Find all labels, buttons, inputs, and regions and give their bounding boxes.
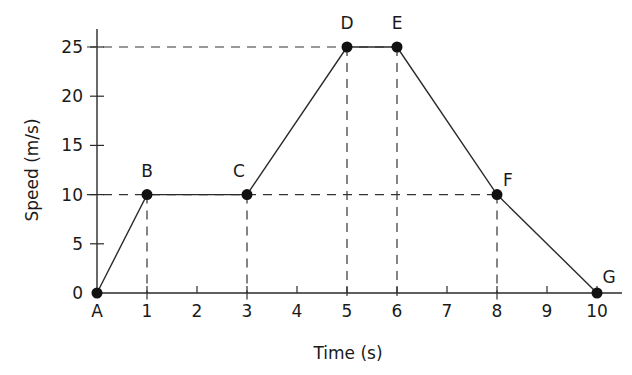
point-labels: BCDEFG xyxy=(141,13,615,287)
data-point-G xyxy=(592,288,603,299)
y-tick-label: 10 xyxy=(61,185,83,205)
speed-time-chart: A123456789100510152025 BCDEFG Time (s) S… xyxy=(0,0,632,375)
point-label-C: C xyxy=(233,161,245,181)
y-tick-label: 25 xyxy=(61,37,83,57)
x-tick-label: 2 xyxy=(192,301,203,321)
y-tick-label: 0 xyxy=(72,283,83,303)
point-label-E: E xyxy=(392,13,403,33)
x-tick-label: 7 xyxy=(442,301,453,321)
x-tick-label: 8 xyxy=(492,301,503,321)
data-point-E xyxy=(392,42,403,53)
x-tick-label: 4 xyxy=(292,301,303,321)
x-tick-label: 5 xyxy=(342,301,353,321)
y-axis-title: Speed (m/s) xyxy=(22,118,42,221)
x-tick-label: 10 xyxy=(586,301,608,321)
axes xyxy=(97,29,622,293)
x-axis-title: Time (s) xyxy=(312,343,382,363)
data-point-D xyxy=(342,42,353,53)
x-tick-label: A xyxy=(91,301,103,321)
x-tick-label: 1 xyxy=(142,301,153,321)
point-label-B: B xyxy=(141,161,153,181)
x-tick-label: 9 xyxy=(542,301,553,321)
x-tick-label: 6 xyxy=(392,301,403,321)
data-point-F xyxy=(492,189,503,200)
point-label-F: F xyxy=(503,170,513,190)
point-label-G: G xyxy=(602,267,615,287)
y-tick-label: 5 xyxy=(72,234,83,254)
point-label-D: D xyxy=(340,13,353,33)
data-point-C xyxy=(242,189,253,200)
y-tick-label: 15 xyxy=(61,135,83,155)
data-point-A xyxy=(92,288,103,299)
x-tick-label: 3 xyxy=(242,301,253,321)
y-tick-label: 20 xyxy=(61,86,83,106)
data-point-B xyxy=(142,189,153,200)
